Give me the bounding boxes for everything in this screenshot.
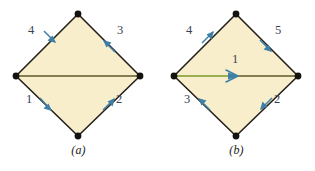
panel-caption-a: (a) — [0, 143, 157, 158]
edge-label-a-1: 1 — [26, 93, 32, 106]
edge-label-b-diagonal: 1 — [232, 53, 238, 66]
vertex-b-bottom — [233, 133, 240, 140]
vertex-a-left — [13, 73, 20, 80]
panel-caption-b: (b) — [158, 143, 315, 158]
vertex-b-left — [171, 73, 178, 80]
vertex-a-right — [137, 73, 144, 80]
vertex-a-top — [75, 11, 82, 18]
edge-label-a-3: 3 — [117, 24, 123, 37]
edge-label-b-2: 2 — [274, 93, 280, 106]
edge-label-a-4: 4 — [28, 24, 34, 37]
edge-label-b-4: 4 — [186, 24, 192, 37]
vertex-a-bottom — [75, 133, 82, 140]
figure-container: 1 2 3 4 (a) — [0, 0, 315, 171]
edge-label-b-3: 3 — [184, 93, 190, 106]
vertex-b-right — [295, 73, 302, 80]
edge-label-a-2: 2 — [116, 93, 122, 106]
vertex-b-top — [233, 11, 240, 18]
edge-label-b-5: 5 — [275, 24, 281, 37]
diagram-panel-b: 1 2 3 4 5 (b) — [158, 0, 315, 171]
diagram-panel-a: 1 2 3 4 (a) — [0, 0, 157, 171]
